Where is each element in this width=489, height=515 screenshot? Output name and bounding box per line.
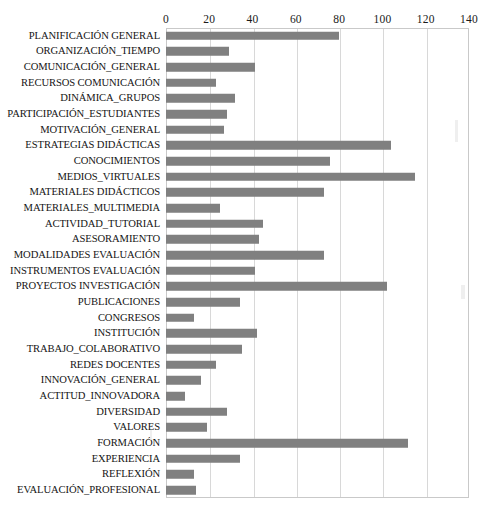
bar (166, 282, 387, 291)
category-label: REDES DOCENTES (0, 359, 163, 371)
bar-row: MEDIOS_VIRTUALES (0, 169, 489, 185)
category-label: DINÁMICA_GRUPOS (0, 92, 163, 104)
category-label: ACTIVIDAD_TUTORIAL (0, 218, 163, 230)
bar (166, 314, 194, 323)
bar-row: INSTITUCIÓN (0, 326, 489, 342)
category-label: COMUNICACIÓN_GENERAL (0, 61, 163, 73)
bar (166, 486, 196, 495)
bar-row: INNOVACIÓN_GENERAL (0, 373, 489, 389)
bar-track (166, 121, 469, 138)
category-label: PROYECTOS INVESTIGACIÓN (0, 280, 163, 292)
category-rows: PLANIFICACIÓN GENERALORGANIZACIÓN_TIEMPO… (0, 28, 489, 498)
page-artifact (455, 120, 458, 142)
bar-track (166, 466, 469, 483)
category-label: INSTITUCIÓN (0, 327, 163, 339)
category-label: MATERIALES_MULTIMEDIA (0, 202, 163, 214)
bar (166, 235, 259, 244)
bar-row: CONGRESOS (0, 310, 489, 326)
bar (166, 110, 227, 119)
bar (166, 392, 185, 401)
bar-chart: 020406080100120140 PLANIFICACIÓN GENERAL… (0, 0, 489, 515)
x-tick-label-40: 40 (247, 12, 259, 26)
category-label: PUBLICACIONES (0, 296, 163, 308)
bar-track (166, 168, 469, 185)
bar (166, 79, 216, 88)
category-label: MOTIVACIÓN_GENERAL (0, 124, 163, 136)
bar (166, 126, 224, 135)
bar-row: FORMACIÓN (0, 435, 489, 451)
category-label: CONGRESOS (0, 312, 163, 324)
bar-row: CONOCIMIENTOS (0, 153, 489, 169)
category-label: FORMACIÓN (0, 437, 163, 449)
bar-track (166, 450, 469, 467)
bar-track (166, 74, 469, 91)
bar-row: TRABAJO_COLABORATIVO (0, 341, 489, 357)
bar-row: DINÁMICA_GRUPOS (0, 91, 489, 107)
bar-row: ACTIVIDAD_TUTORIAL (0, 216, 489, 232)
x-tick-label-80: 80 (333, 12, 345, 26)
bar-row: ORGANIZACIÓN_TIEMPO (0, 44, 489, 60)
bar-track (166, 215, 469, 232)
bar (166, 329, 257, 338)
bar-row: PARTICIPACIÓN_ESTUDIANTES (0, 106, 489, 122)
bar-track (166, 341, 469, 358)
category-label: PLANIFICACIÓN GENERAL (0, 30, 163, 42)
bar-row: EVALUACIÓN_PROFESIONAL (0, 482, 489, 498)
x-tick-label-60: 60 (290, 12, 302, 26)
category-label: INSTRUMENTOS EVALUACIÓN (0, 265, 163, 277)
bar-track (166, 325, 469, 342)
bar-track (166, 419, 469, 436)
bar-track (166, 309, 469, 326)
bar-row: MATERIALES_MULTIMEDIA (0, 200, 489, 216)
bar (166, 423, 207, 432)
category-label: TRABAJO_COLABORATIVO (0, 343, 163, 355)
category-label: ORGANIZACIÓN_TIEMPO (0, 45, 163, 57)
bar (166, 439, 408, 448)
bar (166, 188, 324, 197)
bar-track (166, 278, 469, 295)
bar-track (166, 59, 469, 76)
x-tick-label-100: 100 (373, 12, 391, 26)
bar (166, 470, 194, 479)
bar-track (166, 356, 469, 373)
bar-row: ESTRATEGIAS DIDÁCTICAS (0, 138, 489, 154)
bar-row: EXPERIENCIA (0, 451, 489, 467)
bar-row: REDES DOCENTES (0, 357, 489, 373)
bar (166, 47, 229, 56)
bar-track (166, 247, 469, 264)
category-label: MEDIOS_VIRTUALES (0, 171, 163, 183)
bar (166, 204, 220, 213)
category-label: EXPERIENCIA (0, 453, 163, 465)
bar (166, 173, 415, 182)
category-label: DIVERSIDAD (0, 406, 163, 418)
page-artifact (461, 285, 465, 299)
x-tick-label-20: 20 (203, 12, 215, 26)
bar-row: REFLEXIÓN (0, 467, 489, 483)
bar-row: MATERIALES DIDÁCTICOS (0, 185, 489, 201)
category-label: ASESORAMIENTO (0, 233, 163, 245)
bar (166, 157, 330, 166)
bar-row: PUBLICACIONES (0, 294, 489, 310)
category-label: EVALUACIÓN_PROFESIONAL (0, 484, 163, 496)
page-artifact (150, 430, 152, 440)
bar (166, 94, 235, 103)
category-label: VALORES (0, 421, 163, 433)
bar-row: DIVERSIDAD (0, 404, 489, 420)
bar (166, 63, 255, 72)
category-label: REFLEXIÓN (0, 468, 163, 480)
bar-row: MODALIDADES EVALUACIÓN (0, 247, 489, 263)
bar-row: ASESORAMIENTO (0, 232, 489, 248)
bar-row: INSTRUMENTOS EVALUACIÓN (0, 263, 489, 279)
category-label: ACTITUD_INNOVADORA (0, 390, 163, 402)
bar (166, 251, 324, 260)
bar-track (166, 43, 469, 60)
bar-track (166, 482, 469, 499)
bar-track (166, 294, 469, 311)
bar (166, 267, 255, 276)
bar-row: PLANIFICACIÓN GENERAL (0, 28, 489, 44)
bar (166, 220, 263, 229)
bar-track (166, 137, 469, 154)
x-tick-label-140: 140 (460, 12, 478, 26)
bar-track (166, 184, 469, 201)
bar (166, 376, 201, 385)
